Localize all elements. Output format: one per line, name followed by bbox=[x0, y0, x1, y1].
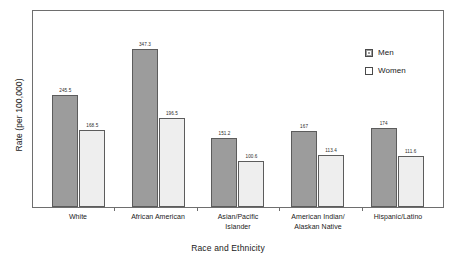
x-axis-label-0: White bbox=[38, 212, 118, 238]
legend-label-men: Men bbox=[378, 48, 394, 57]
x-axis-title: Race and Ethnicity bbox=[0, 243, 456, 253]
bar-value-label: 111.6 bbox=[405, 149, 416, 155]
bar-group: 245.5168.5 bbox=[39, 11, 119, 207]
x-axis-label-4: Hispanic/Latino bbox=[358, 212, 438, 238]
bar-rect bbox=[132, 49, 158, 207]
bar-value-label: 113.4 bbox=[325, 148, 337, 154]
legend-swatch-men-icon bbox=[365, 49, 373, 57]
bar-rect bbox=[79, 130, 105, 207]
x-axis-label-line: Alaskan Native bbox=[278, 222, 358, 232]
plot-area: 245.5168.5347.3196.5151.2100.6167113.417… bbox=[33, 11, 443, 207]
bar-rect bbox=[398, 156, 424, 207]
bar-men-1: 347.3 bbox=[132, 11, 158, 207]
x-axis-label-line: American Indian/ bbox=[278, 212, 358, 222]
x-axis-label-3: American Indian/Alaskan Native bbox=[278, 212, 358, 238]
bar-women-4: 111.6 bbox=[398, 11, 424, 207]
legend-label-women: Women bbox=[378, 66, 406, 75]
bar-women-2: 100.6 bbox=[238, 11, 264, 207]
bar-rect bbox=[238, 161, 264, 207]
x-axis-category-labels: WhiteAfrican AmericanAsian/PacificIsland… bbox=[32, 212, 444, 238]
bar-men-2: 151.2 bbox=[211, 11, 237, 207]
bar-value-label: 151.2 bbox=[218, 131, 230, 137]
bar-men-3: 167 bbox=[291, 11, 317, 207]
legend-item-women: Women bbox=[365, 66, 406, 75]
bar-rect bbox=[52, 95, 78, 207]
bar-rect bbox=[291, 131, 317, 207]
bar-rect bbox=[371, 128, 397, 207]
x-axis-label-line: Hispanic/Latino bbox=[358, 212, 438, 222]
bar-men-0: 245.5 bbox=[52, 11, 78, 207]
x-axis-tick bbox=[197, 207, 198, 211]
bar-rect bbox=[159, 118, 185, 207]
bar-group: 174111.6 bbox=[357, 11, 437, 207]
bar-men-4: 174 bbox=[371, 11, 397, 207]
bar-value-label: 347.3 bbox=[139, 42, 151, 48]
chart-legend: Men Women bbox=[365, 48, 406, 75]
legend-swatch-women-icon bbox=[365, 67, 373, 75]
x-axis-label-line: Asian/Pacific bbox=[198, 212, 278, 222]
bar-group: 167113.4 bbox=[278, 11, 358, 207]
bar-value-label: 100.6 bbox=[245, 154, 257, 160]
x-axis-label-line: African American bbox=[118, 212, 198, 222]
x-axis-tick bbox=[279, 207, 280, 211]
bar-rect bbox=[318, 155, 344, 207]
x-axis-label-2: Asian/PacificIslander bbox=[198, 212, 278, 238]
bar-value-label: 245.5 bbox=[59, 88, 71, 94]
bar-value-label: 167 bbox=[300, 124, 308, 130]
bar-value-label: 174 bbox=[380, 121, 388, 127]
x-axis-ticks bbox=[32, 207, 444, 211]
bar-value-label: 196.5 bbox=[166, 111, 178, 117]
plot-frame: 245.5168.5347.3196.5151.2100.6167113.417… bbox=[32, 10, 444, 208]
x-axis-label-line: Islander bbox=[198, 222, 278, 232]
bar-women-3: 113.4 bbox=[318, 11, 344, 207]
x-axis-tick bbox=[362, 207, 363, 211]
bar-group: 151.2100.6 bbox=[198, 11, 278, 207]
x-axis-tick bbox=[114, 207, 115, 211]
chart-container: Rate (per 100,000) 245.5168.5347.3196.51… bbox=[0, 0, 456, 265]
bar-rect bbox=[211, 138, 237, 207]
bar-value-label: 168.5 bbox=[86, 123, 98, 129]
legend-item-men: Men bbox=[365, 48, 406, 57]
bar-women-1: 196.5 bbox=[159, 11, 185, 207]
x-axis-label-line: White bbox=[38, 212, 118, 222]
bar-group: 347.3196.5 bbox=[119, 11, 199, 207]
bar-women-0: 168.5 bbox=[79, 11, 105, 207]
y-axis-title: Rate (per 100,000) bbox=[14, 55, 28, 175]
x-axis-label-1: African American bbox=[118, 212, 198, 238]
